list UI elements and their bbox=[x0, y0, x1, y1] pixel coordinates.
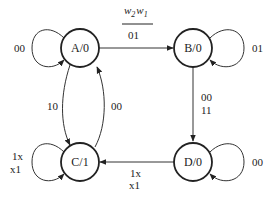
transition-d-to-c-label-1: 1x bbox=[130, 167, 142, 179]
state-a: A/0 bbox=[61, 29, 99, 67]
transition-d-to-c-label-2: x1 bbox=[129, 179, 140, 191]
transition-c-self-label-2: x1 bbox=[10, 163, 21, 175]
state-a-label: A/0 bbox=[71, 41, 89, 55]
transition-b-to-d-label-1: 00 bbox=[201, 91, 213, 103]
input-sub-1: 2 bbox=[131, 10, 135, 19]
transition-c-to-a: 00 bbox=[95, 67, 123, 147]
transition-c-self: 1x x1 bbox=[10, 144, 64, 181]
transition-d-self-label: 00 bbox=[252, 156, 264, 168]
state-b-label: B/0 bbox=[184, 41, 201, 55]
transition-a-to-c-label: 10 bbox=[47, 100, 59, 112]
input-variables-header: w2w1 bbox=[122, 4, 153, 24]
state-diagram: 00 01 1x x1 00 01 w2w1 00 11 1x x1 bbox=[0, 0, 278, 201]
input-sub-2: 1 bbox=[144, 10, 148, 19]
transition-d-self: 00 bbox=[210, 144, 264, 181]
transition-d-to-c: 1x x1 bbox=[100, 162, 174, 191]
state-c: C/1 bbox=[61, 143, 99, 181]
state-c-label: C/1 bbox=[71, 155, 88, 169]
state-b: B/0 bbox=[174, 29, 212, 67]
transition-b-to-d: 00 11 bbox=[193, 67, 213, 141]
transition-c-self-label-1: 1x bbox=[12, 150, 24, 162]
transition-b-self-label: 01 bbox=[252, 42, 263, 54]
state-d-label: D/0 bbox=[184, 155, 202, 169]
transition-a-to-b-label: 01 bbox=[128, 29, 139, 41]
transition-b-self: 01 bbox=[210, 30, 263, 67]
transition-c-to-a-label: 00 bbox=[111, 100, 123, 112]
transition-a-self: 00 bbox=[14, 30, 64, 67]
transition-b-to-d-label-2: 11 bbox=[201, 104, 212, 116]
state-d: D/0 bbox=[174, 143, 212, 181]
transition-a-self-label: 00 bbox=[14, 42, 26, 54]
svg-text:w2w1: w2w1 bbox=[124, 4, 148, 19]
transition-a-to-b: 01 bbox=[99, 29, 173, 48]
transition-a-to-c: 10 bbox=[47, 65, 70, 145]
